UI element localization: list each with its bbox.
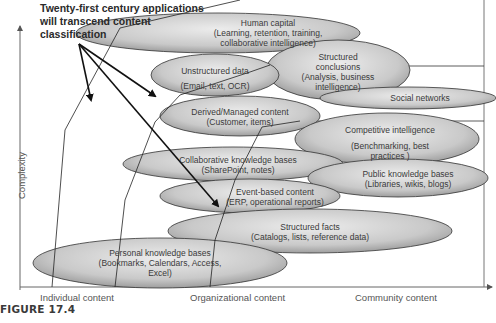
label-unstructured-data: Unstructured data (Email, text, OCR) bbox=[165, 64, 265, 94]
label-line: intelligence) bbox=[288, 82, 388, 92]
label-line: Structured bbox=[288, 52, 388, 62]
x-axis-label-individual: Individual content bbox=[40, 292, 114, 303]
label-line: Event-based content bbox=[210, 187, 340, 197]
arrow-to-left bbox=[79, 44, 91, 100]
label-line: (Bookmarks, Calendars, Access, bbox=[85, 258, 235, 268]
label-personal-kb: Personal knowledge bases (Bookmarks, Cal… bbox=[85, 248, 235, 278]
label-line: (Catalogs, lists, reference data) bbox=[225, 232, 395, 242]
label-line: Unstructured data bbox=[165, 64, 265, 79]
label-line: Derived/Managed content bbox=[180, 107, 300, 117]
figure-caption: FIGURE 17.4 bbox=[0, 303, 75, 315]
label-social-networks: Social networks bbox=[360, 93, 480, 103]
label-line: (ERP, operational reports) bbox=[210, 197, 340, 207]
label-line: Personal knowledge bases bbox=[85, 248, 235, 258]
title-line-1: Twenty-first century applications bbox=[40, 2, 204, 15]
label-line: Competitive intelligence bbox=[325, 125, 455, 135]
label-line: Human capital bbox=[168, 18, 368, 28]
y-axis-label: Complexity bbox=[16, 152, 27, 199]
label-human-capital: Human capital (Learning, retention, trai… bbox=[168, 18, 368, 48]
x-axis-label-community: Community content bbox=[355, 292, 437, 303]
label-line: Structured facts bbox=[225, 222, 395, 232]
label-line: (Email, text, OCR) bbox=[165, 79, 265, 94]
label-line: Public knowledge bases bbox=[343, 169, 473, 179]
label-line: practices ) bbox=[325, 151, 455, 161]
label-structured-conclusions: Structured conclusions (Analysis, busine… bbox=[288, 52, 388, 92]
label-line: (Libraries, wikis, blogs) bbox=[343, 179, 473, 189]
label-structured-facts: Structured facts (Catalogs, lists, refer… bbox=[225, 222, 395, 242]
label-collaborative-kb: Collaborative knowledge bases (SharePoin… bbox=[168, 155, 308, 175]
label-competitive-intelligence: Competitive intelligence (Benchmarking, … bbox=[325, 125, 455, 161]
label-line: conclusions bbox=[288, 62, 388, 72]
label-event-based: Event-based content (ERP, operational re… bbox=[210, 187, 340, 207]
label-line: Collaborative knowledge bases bbox=[168, 155, 308, 165]
label-line: Excel) bbox=[85, 268, 235, 278]
label-line: (Learning, retention, training, bbox=[168, 28, 368, 38]
label-line: collaborative intelligence) bbox=[168, 38, 368, 48]
x-axis-label-organizational: Organizational content bbox=[190, 292, 285, 303]
label-line: (Benchmarking, best bbox=[325, 141, 455, 151]
label-line: (SharePoint, notes) bbox=[168, 165, 308, 175]
label-public-kb: Public knowledge bases (Libraries, wikis… bbox=[343, 169, 473, 189]
label-line: Social networks bbox=[360, 93, 480, 103]
label-line: (Customer, items) bbox=[180, 117, 300, 127]
label-line: (Analysis, business bbox=[288, 72, 388, 82]
label-derived-managed: Derived/Managed content (Customer, items… bbox=[180, 107, 300, 127]
